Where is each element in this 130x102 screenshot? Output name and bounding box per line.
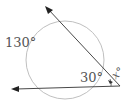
arc-label-30: 30°: [80, 70, 103, 85]
angle-label-x: x°: [109, 64, 126, 81]
circle-secant-diagram: 130° 30° x°: [0, 0, 130, 102]
arrowhead-lower-icon: [11, 86, 19, 92]
secant-lower: [16, 86, 120, 89]
arc-label-130: 130°: [5, 35, 36, 50]
